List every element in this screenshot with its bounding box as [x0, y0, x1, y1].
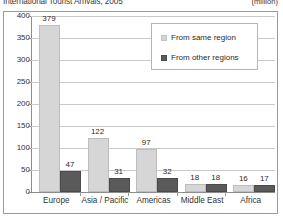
- x-tick-label: Africa: [226, 196, 275, 205]
- legend-swatch-icon: [161, 35, 167, 41]
- x-tick-label: Americas: [129, 196, 178, 205]
- unit-label: (million): [251, 0, 278, 6]
- y-tick-mark: [28, 192, 31, 193]
- y-tick-mark: [28, 38, 31, 39]
- y-tick-mark: [28, 16, 31, 17]
- bar-value-label: 97: [134, 139, 158, 147]
- y-tick-mark: [28, 82, 31, 83]
- y-tick-mark: [28, 148, 31, 149]
- bar-same-region[interactable]: [233, 185, 254, 192]
- y-tick-mark: [28, 170, 31, 171]
- bar-other-regions[interactable]: [206, 184, 227, 192]
- x-axis-baseline: [31, 192, 275, 193]
- legend-label: From same region: [171, 33, 236, 42]
- bar-other-regions[interactable]: [254, 185, 275, 192]
- y-tick-mark: [28, 60, 31, 61]
- y-axis-labels: 501001502002503003504000: [6, 12, 30, 192]
- bar-value-label: 18: [204, 174, 228, 182]
- chart-legend: From same region From other regions: [151, 23, 258, 70]
- bar-group: 37947: [32, 16, 81, 192]
- bar-value-label: 122: [86, 128, 110, 136]
- x-axis-labels: EuropeAsia / PacificAmericasMiddle EastA…: [32, 196, 275, 205]
- legend-swatch-icon: [161, 55, 167, 61]
- bar-same-region[interactable]: [185, 184, 206, 192]
- bar-value-label: 17: [252, 175, 276, 183]
- x-tick-label: Asia / Pacific: [81, 196, 130, 205]
- bar-group: 12231: [81, 16, 130, 192]
- bar-same-region[interactable]: [39, 25, 60, 192]
- bar-same-region[interactable]: [136, 149, 157, 192]
- bar-value-label: 31: [107, 168, 131, 176]
- x-tick-label: Middle East: [178, 196, 227, 205]
- plot-wrapper: 501001502002503003504000 379471223197321…: [4, 12, 279, 215]
- legend-label: From other regions: [171, 53, 239, 62]
- bar-same-region[interactable]: [88, 138, 109, 192]
- bar-other-regions[interactable]: [109, 178, 130, 192]
- bar-value-label: 379: [37, 15, 61, 23]
- y-tick-mark: [28, 104, 31, 105]
- x-tick-label: Europe: [32, 196, 81, 205]
- bar-other-regions[interactable]: [157, 178, 178, 192]
- page-title: International Tourist Arrivals, 2005: [3, 0, 123, 6]
- bar-other-regions[interactable]: [60, 171, 81, 192]
- y-tick-mark: [28, 126, 31, 127]
- bar-value-label: 32: [155, 168, 179, 176]
- bar-value-label: 47: [58, 161, 82, 169]
- chart-frame: 501001502002503003504000 379471223197321…: [3, 11, 278, 214]
- legend-entry-same-region: From same region: [161, 33, 236, 42]
- legend-entry-other-regions: From other regions: [161, 53, 239, 62]
